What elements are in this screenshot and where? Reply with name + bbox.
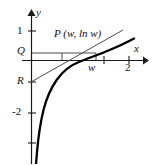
x-axis-label: x <box>134 43 139 54</box>
point-label-p: P (w, ln w) <box>54 28 101 39</box>
point-label-r: R <box>17 75 24 86</box>
point-label-q: Q <box>17 45 25 56</box>
x-tick-label-w: w <box>88 62 95 73</box>
y-tick-label-1: 1 <box>17 25 23 36</box>
x-axis-arrow <box>143 57 149 65</box>
figure-log-curve-tangent: y x 1 Q R -2 w 2 P (w, ln w) <box>0 0 153 164</box>
y-axis-label: y <box>36 7 41 18</box>
y-axis-arrow <box>28 9 36 16</box>
x-tick-label-2: 2 <box>125 62 131 73</box>
y-tick-label-minus2: -2 <box>12 106 21 117</box>
log-curve <box>36 39 134 165</box>
